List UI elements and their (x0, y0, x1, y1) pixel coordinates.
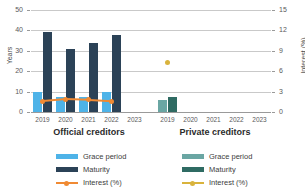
legend-item-private-1[interactable]: Maturity (182, 163, 252, 176)
legend-color-swatch-icon (182, 154, 204, 159)
panel-private-creditors (156, 10, 271, 112)
left-axis-tick-label: 30 (7, 47, 23, 54)
bar-maturity (89, 43, 98, 112)
x-axis-tick-label: 2019 (32, 116, 54, 123)
legend-group-private: Grace periodMaturityInterest (%) (182, 150, 252, 189)
left-axis-tick-label: 10 (7, 88, 23, 95)
left-tickmark (27, 51, 30, 52)
legend-item-private-2[interactable]: Interest (%) (182, 176, 252, 189)
chart-legend: Grace periodMaturityInterest (%) Grace p… (0, 150, 305, 193)
left-axis-tick-label: 0 (7, 108, 23, 115)
legend-label: Interest (%) (83, 176, 122, 189)
legend-line-swatch-icon (182, 180, 204, 185)
legend-label: Maturity (209, 163, 236, 176)
legend-label: Grace period (83, 150, 126, 163)
right-tickmark (272, 92, 275, 93)
left-tickmark (27, 10, 30, 11)
right-axis-tick-label: 15 (279, 6, 295, 13)
legend-item-official-1[interactable]: Maturity (56, 163, 126, 176)
axis-baseline (31, 112, 271, 113)
panel-official-creditors (31, 10, 146, 112)
right-axis-label: Interest (%) (300, 31, 306, 81)
legend-item-official-2[interactable]: Interest (%) (56, 176, 126, 189)
x-axis-tick-label: 2020 (55, 116, 77, 123)
x-axis-tick-label: 2022 (101, 116, 123, 123)
legend-label: Grace period (209, 150, 252, 163)
legend-color-swatch-icon (56, 167, 78, 172)
legend-group-official: Grace periodMaturityInterest (%) (56, 150, 126, 189)
x-axis-tick-label: 2020 (180, 116, 202, 123)
x-axis-tick-label: 2021 (203, 116, 225, 123)
x-axis-tick-label: 2019 (157, 116, 179, 123)
chart-figure: Years Interest (%) 01020304050 03691215 … (0, 0, 305, 193)
interest-data-point (40, 99, 45, 104)
interest-data-point (165, 60, 170, 65)
right-tickmark (272, 30, 275, 31)
x-axis-tick-label: 2022 (226, 116, 248, 123)
legend-label: Maturity (83, 163, 110, 176)
interest-data-point (63, 97, 68, 102)
panel-title-official: Official creditors (24, 127, 154, 137)
left-tickmark (27, 92, 30, 93)
right-axis-tick-label: 3 (279, 88, 295, 95)
right-tickmark (272, 10, 275, 11)
right-axis-tick-label: 0 (279, 108, 295, 115)
legend-line-swatch-icon (56, 180, 78, 185)
bar-maturity (168, 97, 177, 112)
legend-item-official-0[interactable]: Grace period (56, 150, 126, 163)
left-tickmark (27, 30, 30, 31)
legend-color-swatch-icon (182, 167, 204, 172)
legend-item-private-0[interactable]: Grace period (182, 150, 252, 163)
left-axis-tick-label: 40 (7, 26, 23, 33)
right-tickmark (272, 71, 275, 72)
right-tickmark (272, 51, 275, 52)
left-tickmark (27, 112, 30, 113)
left-axis-tick-label: 50 (7, 6, 23, 13)
bar-maturity (66, 49, 75, 112)
left-axis-tick-label: 20 (7, 67, 23, 74)
interest-data-point (109, 99, 114, 104)
left-tickmark (27, 71, 30, 72)
x-axis-tick-label: 2021 (78, 116, 100, 123)
x-axis-tick-label: 2023 (124, 116, 146, 123)
right-axis-tick-label: 12 (279, 26, 295, 33)
right-axis-tick-label: 6 (279, 67, 295, 74)
panel-title-private: Private creditors (150, 127, 280, 137)
legend-color-swatch-icon (56, 154, 78, 159)
right-tickmark (272, 112, 275, 113)
x-axis-tick-label: 2023 (249, 116, 271, 123)
legend-label: Interest (%) (209, 176, 248, 189)
bar-grace-period (158, 100, 167, 112)
right-axis-tick-label: 9 (279, 47, 295, 54)
